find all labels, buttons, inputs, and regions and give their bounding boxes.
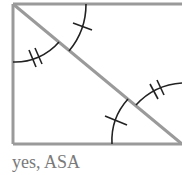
arc-bottom-right-upper	[136, 83, 182, 105]
rectangle-diagonal-diagram	[0, 0, 182, 175]
answer-caption: yes, ASA	[12, 152, 80, 173]
diagonal	[13, 4, 182, 144]
